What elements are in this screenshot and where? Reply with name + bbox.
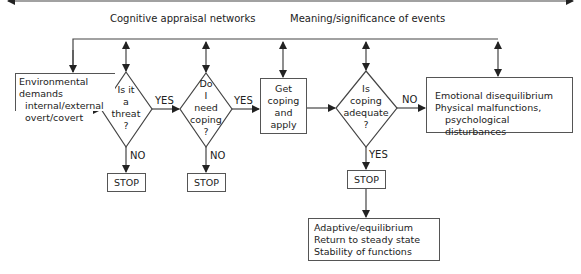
stop-box-1: STOP xyxy=(107,173,146,192)
adequate-line2: coping xyxy=(340,95,392,107)
threat-line1: Is it xyxy=(106,84,146,96)
adaptive-line1: Adaptive/equilibrium xyxy=(314,222,439,234)
diseq-line3: psychological disturbances xyxy=(435,114,572,138)
need-coping-decision: Do I need coping ? xyxy=(184,78,228,138)
environmental-demands-box: Environmental demands internal/external … xyxy=(15,73,115,111)
threat-line4: ? xyxy=(106,120,146,132)
get-coping-box: Get coping and apply xyxy=(260,78,307,134)
threat-yes-label: YES xyxy=(155,95,174,107)
coping-adequate-decision: Is coping adequate ? xyxy=(340,83,392,131)
get-line4: apply xyxy=(261,119,306,131)
need-no-label: NO xyxy=(210,150,225,162)
threat-line2: a xyxy=(106,96,146,108)
diseq-line2: Physical malfunctions, xyxy=(435,102,572,114)
env-line3: overt/covert xyxy=(19,112,115,124)
adaptive-box: Adaptive/equilibrium Return to steady st… xyxy=(308,218,440,261)
adequate-line4: ? xyxy=(340,119,392,131)
need-line4: coping xyxy=(184,114,228,126)
env-line2: internal/external xyxy=(19,100,115,112)
need-line2: I xyxy=(184,90,228,102)
disequilibrium-box: Emotional disequilibrium Physical malfun… xyxy=(426,77,573,133)
need-line5: ? xyxy=(184,126,228,138)
adequate-line1: Is xyxy=(340,83,392,95)
meaning-significance-label: Meaning/significance of events xyxy=(290,13,445,25)
threat-line3: threat xyxy=(106,108,146,120)
need-line3: need xyxy=(184,102,228,114)
threat-decision: Is it a threat ? xyxy=(106,84,146,132)
env-line1: Environmental demands xyxy=(19,76,115,100)
diseq-line1: Emotional disequilibrium xyxy=(435,90,572,102)
adaptive-line2: Return to steady state xyxy=(314,234,439,246)
get-line1: Get xyxy=(261,83,306,95)
get-line2: coping xyxy=(261,95,306,107)
adequate-yes-label: YES xyxy=(369,149,388,161)
get-line3: and xyxy=(261,107,306,119)
stop-box-3: STOP xyxy=(347,170,386,189)
cognitive-appraisal-label: Cognitive appraisal networks xyxy=(110,13,255,25)
adequate-no-label: NO xyxy=(402,94,417,106)
need-yes-label: YES xyxy=(234,95,253,107)
need-line1: Do xyxy=(184,78,228,90)
adaptive-line3: Stability of functions xyxy=(314,246,439,258)
stop-box-2: STOP xyxy=(187,173,226,192)
threat-no-label: NO xyxy=(130,150,145,162)
adequate-line3: adequate xyxy=(340,107,392,119)
